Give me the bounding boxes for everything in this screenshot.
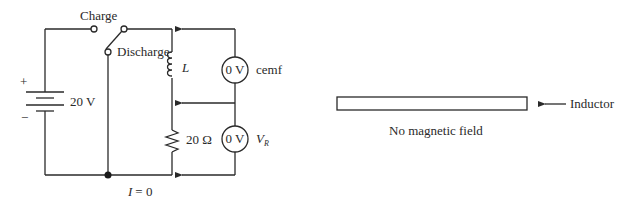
- inductor-arrow-label: Inductor: [570, 96, 615, 111]
- battery-plus-sign: +: [20, 74, 27, 89]
- resistor-label: 20 Ω: [186, 132, 212, 147]
- resistor-zigzag: [166, 130, 178, 152]
- inductor-label: L: [181, 60, 189, 75]
- battery: [26, 29, 64, 175]
- battery-voltage-label: 20 V: [70, 94, 96, 109]
- vr-reading: 0 V: [226, 131, 246, 146]
- discharge-label: Discharge: [117, 44, 170, 59]
- current-label: I= 0: [127, 184, 152, 199]
- vr-label: VR: [256, 131, 269, 148]
- charge-label: Charge: [80, 8, 118, 23]
- cemf-label: cemf: [256, 62, 283, 77]
- junction-dot: [105, 172, 112, 179]
- circuit-diagram: Charge Discharge + − 20 V L 20 Ω 0 V cem…: [0, 0, 629, 206]
- cemf-reading: 0 V: [226, 62, 246, 77]
- discharge-terminal: [105, 49, 111, 55]
- battery-minus-sign: −: [21, 110, 28, 125]
- magnetic-field-caption: No magnetic field: [389, 123, 483, 138]
- charge-terminal: [91, 26, 97, 32]
- inductor-bar: [337, 97, 527, 110]
